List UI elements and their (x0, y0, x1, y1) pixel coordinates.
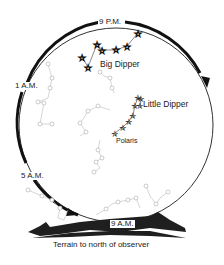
svg-text:☆: ☆ (112, 45, 120, 55)
label-1am: 1 A.M. (14, 82, 39, 90)
little-dipper-stars: ✯✯✯ ✯✯✯ ✯✯ (111, 93, 145, 139)
svg-text:☆: ☆ (123, 42, 131, 52)
label-polaris: Polaris (116, 137, 137, 144)
svg-text:☆: ☆ (98, 46, 106, 56)
faint-stars (26, 62, 170, 211)
circumpolar-diagram: ☆☆☆ ☆☆☆☆ ✯✯✯ ✯✯✯ ✯✯ 9 P.M. 1 A.M. 5 A.M.… (0, 0, 224, 265)
arc-9pm-1am (27, 22, 100, 83)
label-5am: 5 A.M. (20, 172, 45, 180)
svg-text:✯: ✯ (129, 111, 137, 121)
svg-text:☆: ☆ (78, 53, 86, 63)
star-path-circle (19, 28, 213, 222)
label-9pm: 9 P.M. (98, 18, 122, 26)
label-terrain: Terrain to north of observer (53, 241, 149, 249)
label-9am: 9 A.M. (110, 220, 135, 228)
label-big-dipper: Big Dipper (100, 60, 140, 69)
svg-text:☆: ☆ (134, 29, 142, 39)
arrowhead-right-icon (201, 76, 210, 88)
label-little-dipper: Little Dipper (143, 100, 188, 109)
arrowhead-9am-icon (66, 208, 78, 216)
svg-text:☆: ☆ (84, 63, 92, 73)
